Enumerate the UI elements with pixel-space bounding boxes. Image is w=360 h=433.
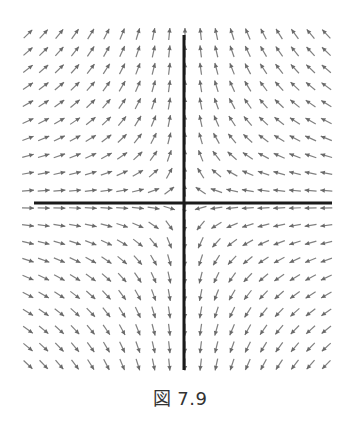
arrowhead-icon	[61, 188, 66, 192]
arrowhead-icon	[29, 206, 34, 210]
arrowhead-icon	[45, 188, 50, 192]
arrowhead-icon	[107, 171, 112, 175]
direction-field-diagram	[0, 0, 360, 433]
arrowhead-icon	[76, 241, 81, 245]
arrowhead-icon	[136, 348, 140, 353]
arrowhead-icon	[92, 206, 97, 210]
arrowhead-icon	[167, 115, 171, 120]
arrowhead-icon	[61, 206, 66, 210]
arrowhead-icon	[29, 188, 34, 192]
arrowhead-icon	[60, 171, 65, 175]
arrowhead-icon	[74, 29, 78, 34]
arrowhead-icon	[320, 188, 325, 192]
arrowhead-icon	[229, 278, 233, 283]
arrowhead-icon	[152, 28, 156, 33]
arrowhead-icon	[29, 259, 34, 263]
arrowhead-icon	[198, 261, 202, 266]
arrowhead-icon	[123, 188, 128, 192]
arrowhead-icon	[167, 98, 171, 103]
vector-arrows	[22, 28, 332, 371]
arrowhead-icon	[168, 150, 172, 155]
arrowhead-icon	[136, 46, 140, 51]
arrowhead-icon	[258, 171, 263, 175]
arrowhead-icon	[45, 171, 50, 175]
arrowhead-icon	[289, 224, 294, 228]
arrowhead-icon	[152, 98, 156, 103]
arrowhead-icon	[167, 279, 171, 284]
arrowhead-icon	[230, 365, 234, 370]
arrowhead-icon	[320, 206, 325, 210]
arrowhead-icon	[230, 46, 234, 51]
arrowhead-icon	[273, 224, 278, 228]
arrowhead-icon	[123, 224, 128, 228]
arrowhead-icon	[44, 311, 49, 315]
arrowhead-icon	[242, 188, 247, 192]
arrowhead-icon	[152, 366, 156, 371]
arrowhead-icon	[305, 153, 310, 157]
arrowhead-icon	[167, 296, 171, 301]
arrowhead-icon	[108, 206, 113, 210]
arrowhead-icon	[289, 241, 294, 245]
arrowhead-icon	[320, 171, 325, 175]
arrowhead-icon	[244, 99, 248, 104]
arrowhead-icon	[276, 46, 280, 51]
arrowhead-icon	[305, 171, 310, 175]
arrowhead-icon	[29, 171, 34, 175]
arrowhead-icon	[242, 206, 247, 210]
arrowhead-icon	[29, 241, 34, 245]
arrowhead-icon	[153, 151, 157, 156]
arrowhead-icon	[273, 206, 278, 210]
arrowhead-icon	[198, 314, 202, 319]
figure-caption: 図 7.9	[0, 384, 360, 410]
arrowhead-icon	[198, 98, 202, 103]
arrowhead-icon	[242, 224, 247, 228]
arrowhead-icon	[226, 206, 231, 210]
arrowhead-icon	[60, 153, 65, 157]
arrowhead-icon	[152, 46, 156, 51]
arrowhead-icon	[77, 206, 82, 210]
arrowhead-icon	[260, 330, 264, 335]
arrowhead-icon	[198, 296, 202, 301]
arrowhead-icon	[183, 28, 187, 33]
arrowhead-icon	[198, 115, 202, 120]
arrowhead-icon	[76, 224, 81, 228]
arrowhead-icon	[289, 206, 294, 210]
arrowhead-icon	[45, 206, 50, 210]
arrowhead-icon	[258, 206, 263, 210]
arrowhead-icon	[274, 277, 279, 281]
arrowhead-icon	[167, 28, 171, 33]
arrowhead-icon	[214, 28, 218, 33]
arrowhead-icon	[226, 188, 231, 192]
arrowhead-icon	[214, 366, 218, 371]
arrowhead-icon	[152, 348, 156, 353]
arrowhead-icon	[305, 206, 310, 210]
arrowhead-icon	[124, 206, 129, 210]
arrowhead-icon	[214, 313, 218, 318]
arrowhead-icon	[214, 46, 218, 51]
arrowhead-icon	[92, 224, 97, 228]
arrowhead-icon	[211, 188, 216, 192]
arrowhead-icon	[90, 347, 94, 352]
arrowhead-icon	[321, 311, 326, 315]
arrowhead-icon	[305, 188, 310, 192]
arrowhead-icon	[306, 100, 311, 104]
